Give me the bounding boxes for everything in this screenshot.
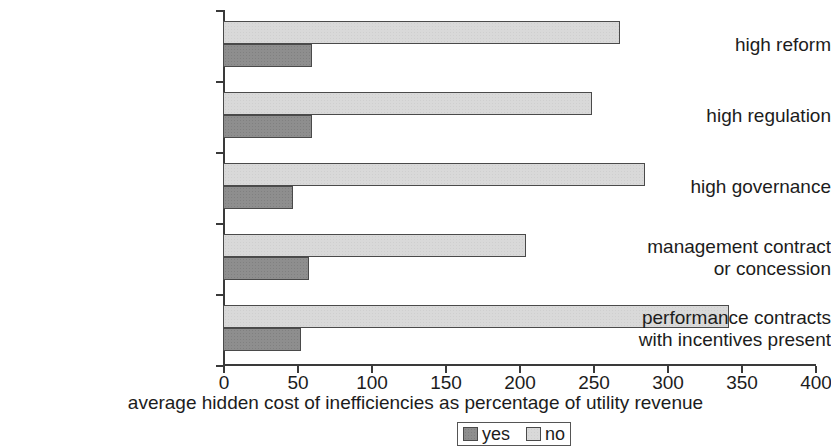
bar-no (223, 163, 645, 186)
legend-swatch-no-icon (526, 427, 541, 441)
category-label: high reform (615, 34, 831, 56)
legend-item-no: no (526, 424, 565, 445)
legend-label-yes: yes (482, 424, 510, 445)
y-axis-tick (216, 294, 223, 296)
legend-item-yes: yes (463, 424, 510, 445)
y-axis-tick (216, 81, 223, 83)
x-axis-tick-label: 200 (504, 372, 536, 394)
bar-yes (223, 257, 309, 280)
bar-yes (223, 44, 312, 67)
x-axis-tick-label: 100 (356, 372, 388, 394)
x-axis-tick-label: 50 (287, 372, 308, 394)
x-axis-tick-label: 300 (652, 372, 684, 394)
category-label: management contract or concession (615, 236, 831, 280)
legend-label-no: no (545, 424, 565, 445)
category-label: high governance (615, 176, 831, 198)
chart-figure: 050100150200250300350400 high reformhigh… (0, 0, 831, 448)
x-axis-tick-label: 400 (800, 372, 831, 394)
legend-swatch-yes-icon (463, 427, 478, 441)
y-axis-tick (216, 365, 223, 367)
category-label: high regulation (615, 105, 831, 127)
y-axis-tick (216, 10, 223, 12)
bar-yes (223, 115, 312, 138)
bar-no (223, 92, 592, 115)
x-axis-tick-label: 0 (219, 372, 230, 394)
bar-yes (223, 186, 293, 209)
bar-no (223, 21, 620, 44)
x-axis-tick-label: 350 (726, 372, 758, 394)
x-axis-tick-label: 250 (578, 372, 610, 394)
bar-yes (223, 328, 301, 351)
x-axis-title: average hidden cost of inefficiencies as… (0, 392, 831, 414)
bar-no (223, 234, 526, 257)
legend: yes no (457, 422, 571, 446)
x-axis-tick-label: 150 (430, 372, 462, 394)
y-axis-tick (216, 152, 223, 154)
category-label: performance contracts with incentives pr… (615, 307, 831, 351)
y-axis-tick (216, 223, 223, 225)
